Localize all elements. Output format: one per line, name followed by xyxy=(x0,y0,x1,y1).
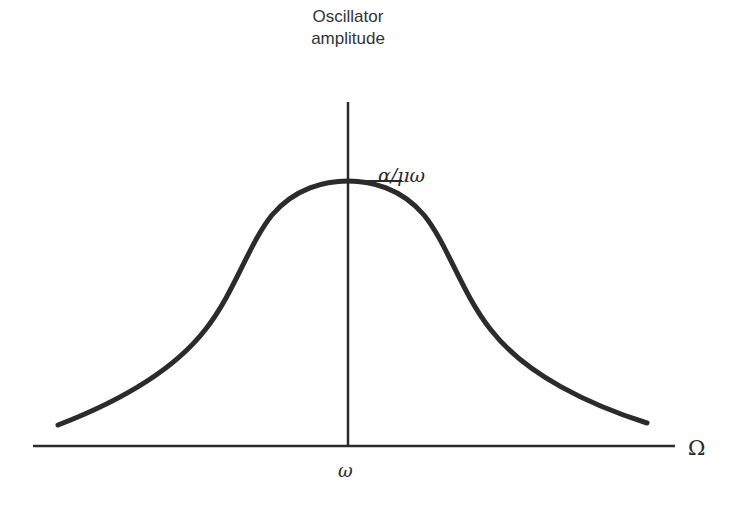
resonance-diagram xyxy=(0,0,747,511)
peak-amplitude-label: α/μω xyxy=(378,164,425,186)
x-axis-label: Ω xyxy=(688,436,705,460)
y-axis-label-line1: Oscillator xyxy=(268,6,428,28)
resonance-frequency-label: ω xyxy=(338,460,353,481)
y-axis-label-line2: amplitude xyxy=(268,28,428,50)
resonance-curve xyxy=(58,181,647,425)
y-axis-label: Oscillator amplitude xyxy=(268,6,428,50)
